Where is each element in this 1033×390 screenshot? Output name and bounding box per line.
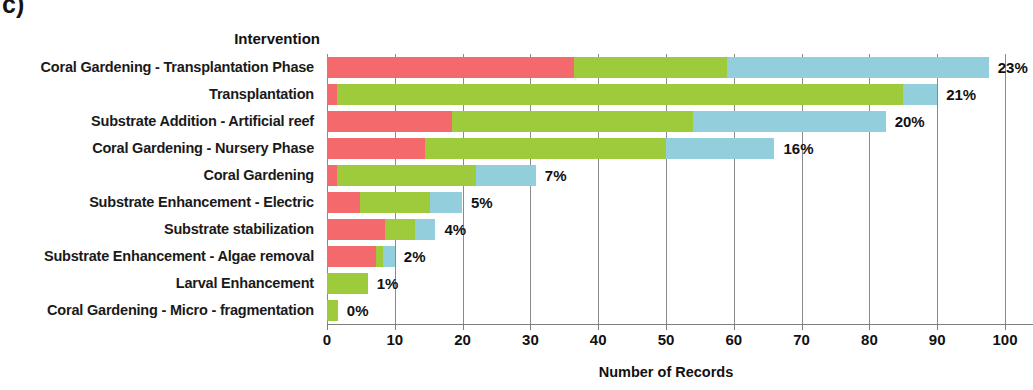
bar-value-label: 16% bbox=[774, 138, 813, 159]
category-label: Coral Gardening - Micro - fragmentation bbox=[0, 297, 320, 324]
x-axis-tick bbox=[1005, 324, 1006, 330]
category-label: Substrate Enhancement - Algae removal bbox=[0, 243, 320, 270]
bar-row: 21% bbox=[327, 81, 1005, 108]
bar-segment-series_1 bbox=[327, 219, 385, 240]
x-axis-tick bbox=[802, 324, 803, 330]
stacked-bar bbox=[327, 246, 395, 267]
bar-segment-series_1 bbox=[327, 84, 337, 105]
bar-segment-series_3 bbox=[666, 138, 774, 159]
bar-segment-series_1 bbox=[327, 138, 425, 159]
stacked-bar-chart: Intervention Coral Gardening - Transplan… bbox=[0, 0, 1033, 390]
bar-value-label: 21% bbox=[937, 84, 976, 105]
category-label: Coral Gardening bbox=[0, 162, 320, 189]
stacked-bar bbox=[327, 192, 462, 213]
category-label: Coral Gardening - Transplantation Phase bbox=[0, 54, 320, 81]
category-label: Coral Gardening - Nursery Phase bbox=[0, 135, 320, 162]
x-axis-tick-label: 0 bbox=[323, 331, 331, 348]
x-axis-tick bbox=[395, 324, 396, 330]
x-axis-tick-label: 40 bbox=[590, 331, 607, 348]
x-axis-tick-label: 90 bbox=[929, 331, 946, 348]
category-label-column: Coral Gardening - Transplantation PhaseT… bbox=[0, 54, 320, 324]
bar-value-label: 23% bbox=[989, 57, 1028, 78]
bar-segment-series_1 bbox=[327, 192, 360, 213]
bar-value-label: 1% bbox=[368, 273, 399, 294]
bar-segment-series_3 bbox=[430, 192, 462, 213]
stacked-bar bbox=[327, 111, 886, 132]
bar-row: 2% bbox=[327, 243, 1005, 270]
category-label: Substrate Addition - Artificial reef bbox=[0, 108, 320, 135]
stacked-bar bbox=[327, 84, 937, 105]
stacked-bar bbox=[327, 57, 989, 78]
bar-segment-series_2 bbox=[385, 219, 416, 240]
bar-segment-series_2 bbox=[574, 57, 727, 78]
bar-value-label: 7% bbox=[536, 165, 567, 186]
bar-segment-series_1 bbox=[327, 246, 376, 267]
bar-value-label: 5% bbox=[462, 192, 493, 213]
x-axis-tick bbox=[734, 324, 735, 330]
x-axis-title: Number of Records bbox=[327, 364, 1005, 380]
bar-row: 23% bbox=[327, 54, 1005, 81]
bar-segment-series_1 bbox=[327, 57, 574, 78]
x-axis-tick bbox=[463, 324, 464, 330]
stacked-bar bbox=[327, 219, 435, 240]
bar-value-label: 20% bbox=[886, 111, 925, 132]
stacked-bar bbox=[327, 165, 536, 186]
y-axis-title: Intervention bbox=[0, 30, 320, 47]
bar-row: 7% bbox=[327, 162, 1005, 189]
bar-value-label: 0% bbox=[338, 300, 369, 321]
bar-segment-series_2 bbox=[337, 84, 903, 105]
bar-segment-series_3 bbox=[383, 246, 395, 267]
x-axis-tick bbox=[666, 324, 667, 330]
bar-segment-series_1 bbox=[327, 111, 452, 132]
bar-segment-series_3 bbox=[727, 57, 989, 78]
x-axis-tick bbox=[327, 324, 328, 330]
bar-segment-series_2 bbox=[360, 192, 431, 213]
stacked-bar bbox=[327, 273, 368, 294]
stacked-bar bbox=[327, 300, 338, 321]
bar-segment-series_2 bbox=[425, 138, 666, 159]
bar-segment-series_2 bbox=[452, 111, 693, 132]
x-axis-line-extension bbox=[1005, 324, 1033, 325]
bar-row: 16% bbox=[327, 135, 1005, 162]
x-axis-tick-label: 30 bbox=[522, 331, 539, 348]
x-axis-tick-label: 20 bbox=[454, 331, 471, 348]
x-axis-tick-label: 80 bbox=[861, 331, 878, 348]
category-label: Transplantation bbox=[0, 81, 320, 108]
stacked-bar bbox=[327, 138, 774, 159]
bar-segment-series_1 bbox=[327, 165, 337, 186]
bar-segment-series_3 bbox=[903, 84, 937, 105]
category-label: Larval Enhancement bbox=[0, 270, 320, 297]
x-axis-tick bbox=[937, 324, 938, 330]
category-label: Substrate Enhancement - Electric bbox=[0, 189, 320, 216]
plot-area: 23%21%20%16%7%5%4%2%1%0% bbox=[327, 54, 1005, 324]
bar-segment-series_2 bbox=[376, 246, 383, 267]
bar-segment-series_2 bbox=[337, 165, 476, 186]
category-label: Substrate stabilization bbox=[0, 216, 320, 243]
bar-segment-series_3 bbox=[693, 111, 886, 132]
x-axis-tick-label: 60 bbox=[725, 331, 742, 348]
bar-value-label: 2% bbox=[395, 246, 426, 267]
bar-segment-series_2 bbox=[327, 273, 368, 294]
x-axis-tick-label: 10 bbox=[386, 331, 403, 348]
bar-row: 5% bbox=[327, 189, 1005, 216]
bar-row: 1% bbox=[327, 270, 1005, 297]
x-axis-tick-label: 70 bbox=[793, 331, 810, 348]
x-axis-tick-label: 50 bbox=[658, 331, 675, 348]
bar-segment-series_2 bbox=[327, 300, 338, 321]
bar-row: 4% bbox=[327, 216, 1005, 243]
x-axis-tick bbox=[598, 324, 599, 330]
x-axis-tick bbox=[869, 324, 870, 330]
bar-row: 20% bbox=[327, 108, 1005, 135]
bar-row: 0% bbox=[327, 297, 1005, 324]
x-axis-tick bbox=[530, 324, 531, 330]
x-axis-tick-label: 100 bbox=[992, 331, 1017, 348]
gridline bbox=[1005, 54, 1006, 324]
bar-segment-series_3 bbox=[415, 219, 435, 240]
bar-value-label: 4% bbox=[435, 219, 466, 240]
bar-segment-series_3 bbox=[476, 165, 536, 186]
